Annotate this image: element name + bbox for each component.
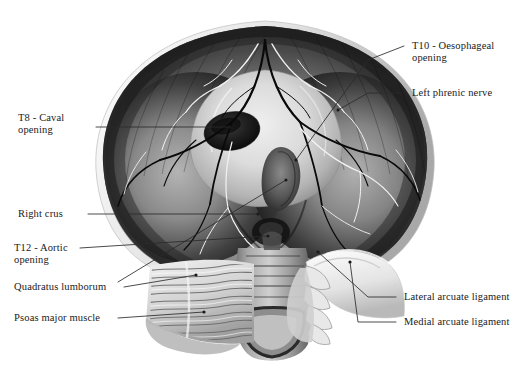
psoas-major-muscle — [140, 260, 265, 355]
label-lateral-arcuate-ligament: Lateral arcuate ligament — [404, 291, 510, 303]
label-right-crus: Right crus — [18, 208, 63, 220]
label-left-phrenic-nerve: Left phrenic nerve — [412, 87, 492, 99]
label-medial-arcuate-ligament: Medial arcuate ligament — [404, 316, 510, 328]
figure-canvas: T8 - Caval opening Right crus T12 - Aort… — [0, 0, 530, 369]
label-psoas-major-muscle: Psoas major muscle — [14, 312, 100, 324]
label-t12-aortic-opening: T12 - Aortic opening — [14, 242, 68, 266]
label-t8-caval-opening: T8 - Caval opening — [18, 112, 64, 136]
label-t10-oesophageal-opening: T10 - Oesophageal opening — [412, 40, 494, 64]
label-quadratus-lumborum: Quadratus lumborum — [14, 281, 106, 293]
